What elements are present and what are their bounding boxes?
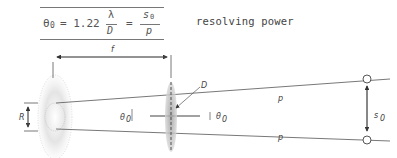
object-points: s 0 [363,75,385,144]
aperture-label: D [176,81,207,108]
resolving-power-diagram: f R D θ 0 θ 0 p p [0,0,397,158]
label-f: f [111,45,115,54]
svg-text:θ: θ [216,112,221,121]
label-D: D [201,81,207,90]
spot-radius-dimension: R [19,103,38,131]
svg-text:0: 0 [126,115,131,124]
lens [165,82,177,152]
angle-left: θ 0 [120,109,132,124]
label-p-top: p [277,94,283,103]
label-s-sub: 0 [380,114,385,123]
svg-text:θ: θ [120,113,125,122]
angle-right: θ 0 [210,112,227,124]
focal-length-dimension: f [53,45,171,78]
svg-text:0: 0 [222,115,227,124]
label-p-bottom: p [277,133,283,142]
label-s: s [374,111,378,120]
airy-disk-image [38,75,72,158]
label-R: R [19,113,25,122]
rays [56,79,390,141]
